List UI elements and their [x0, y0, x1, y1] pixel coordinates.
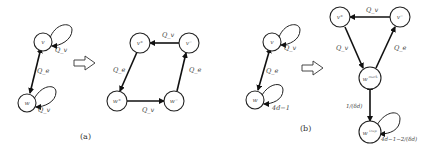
node-w-trap-label: w [362, 129, 368, 136]
loop-w [262, 85, 283, 104]
edge-left-label: Q_e [113, 66, 126, 74]
node-v-plus-label: v⁺ [337, 13, 344, 20]
edge-right-label: Q_e [394, 44, 407, 52]
transform-arrow-a-icon [74, 56, 95, 70]
node-v-plus-label: v⁺ [137, 39, 144, 46]
edge-wminus-vminus [177, 53, 186, 91]
loop-w-label: 4d−1 [271, 104, 290, 112]
panel-a-before: v w Q_e Q_v Q_v [18, 25, 72, 114]
panel-b-before: v w Q_e Q_v 4d−1 [246, 25, 300, 112]
loop-trap-label: 4d−1−2/(δd) [380, 136, 417, 142]
edge-label-qe: Q_e [266, 67, 279, 75]
node-w-label: w [24, 99, 30, 106]
loop-v [279, 25, 300, 45]
node-w-plus-label: w⁺ [113, 97, 121, 104]
edge-label-qe: Q_e [37, 67, 50, 75]
loop-v-label: Q_v [284, 44, 297, 52]
loop-v-label: Q_v [55, 46, 68, 54]
node-v-minus-label: v⁻ [397, 13, 404, 20]
panel-a-after: v⁺ v⁻ w⁺ w⁻ Q_v Q_e Q_v Q_e [107, 31, 202, 114]
loop-w [34, 87, 56, 107]
node-w-label: w [252, 96, 258, 103]
node-v-minus-label: v⁻ [186, 39, 193, 46]
transform-arrow-b-icon [302, 61, 323, 75]
node-w-mark-sup: mark [368, 75, 377, 79]
node-w-minus-label: w⁻ [170, 97, 178, 104]
edge-top-label: Q_v [366, 6, 379, 14]
loop-w-label: Q_v [38, 106, 51, 114]
panel-b-after: v⁺ v⁻ w mark w trap Q_v Q_v Q_e 1/(δd) 4… [330, 6, 417, 143]
edge-bottom-label: Q_v [142, 106, 155, 114]
edge-left-label: Q_v [336, 44, 349, 52]
edge-wmark-vminus [376, 27, 395, 68]
diagram-canvas: v w Q_e Q_v Q_v v⁺ v⁻ w⁺ w⁻ Q_v Q_e Q_v … [0, 0, 432, 151]
caption-b: (b) [300, 124, 311, 133]
loop-v [50, 25, 72, 46]
caption-a: (a) [80, 132, 91, 141]
edge-mark-trap-label: 1/(δd) [346, 103, 362, 109]
edge-right-label: Q_e [189, 66, 202, 74]
edge-top-label: Q_v [162, 31, 175, 39]
node-w-trap-sup: trap [369, 129, 377, 133]
